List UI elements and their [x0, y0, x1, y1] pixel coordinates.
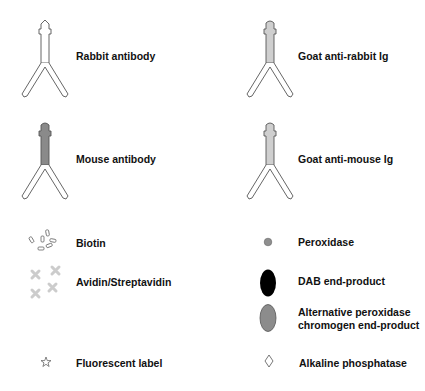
avidin-streptavidin-label: Avidin/Streptavidin	[76, 276, 171, 289]
alternative-chromogen-label: Alternative peroxidase chromogen end-pro…	[298, 306, 419, 332]
biotin-label: Biotin	[76, 237, 106, 250]
mouse-antibody-icon	[18, 116, 74, 206]
avidin-cross-icon	[28, 264, 68, 306]
mouse-antibody-label: Mouse antibody	[76, 153, 156, 166]
alternative-chromogen-line1: Alternative peroxidase	[298, 306, 419, 319]
star-icon	[40, 356, 52, 368]
goat-anti-mouse-ig-label: Goat anti-mouse Ig	[298, 153, 393, 166]
gray-ellipse-icon	[258, 303, 278, 333]
goat-anti-rabbit-ig-label: Goat anti-rabbit Ig	[298, 50, 388, 63]
diamond-icon	[264, 354, 274, 368]
rabbit-antibody-label: Rabbit antibody	[76, 50, 155, 63]
biotin-cluster-icon	[26, 228, 62, 254]
alternative-chromogen-line2: chromogen end-product	[298, 319, 419, 332]
dab-end-product-label: DAB end-product	[298, 275, 385, 288]
alkaline-phosphatase-label: Alkaline phosphatase	[299, 357, 407, 370]
small-gray-circle-icon	[263, 237, 273, 247]
goat-anti-mouse-ig-icon	[243, 116, 299, 206]
goat-anti-rabbit-ig-icon	[243, 14, 299, 104]
fluorescent-label-label: Fluorescent label	[76, 357, 162, 370]
black-ellipse-icon	[258, 268, 278, 298]
peroxidase-label: Peroxidase	[298, 236, 354, 249]
rabbit-antibody-icon	[18, 14, 74, 104]
